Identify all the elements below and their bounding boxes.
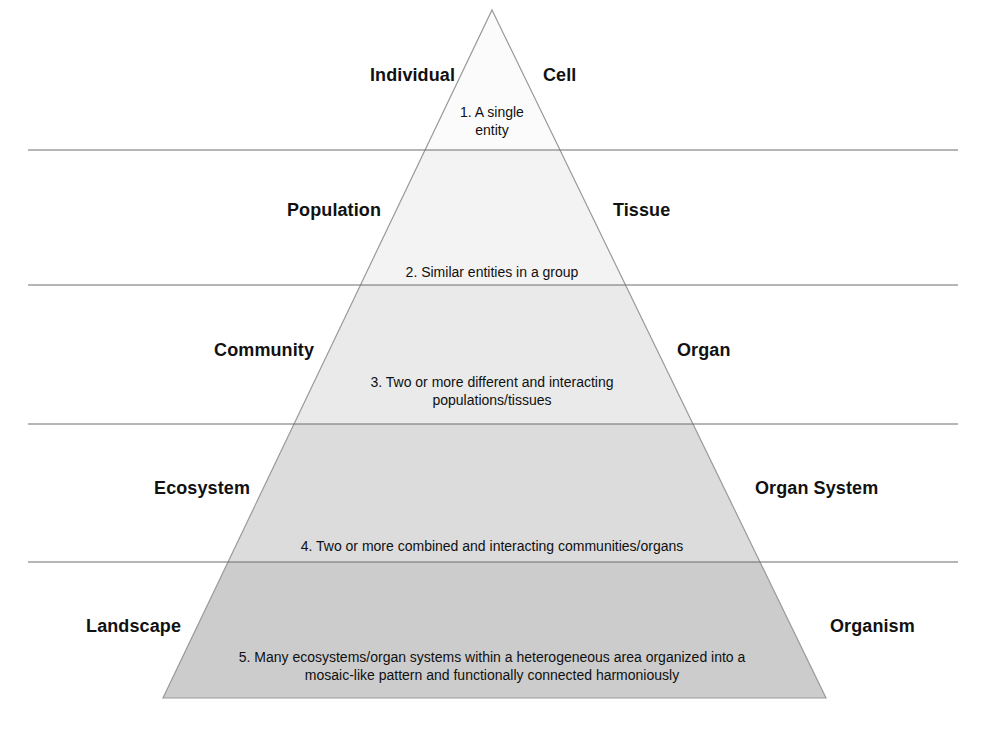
tier-description-5: 5. Many ecosystems/organ systems within … <box>142 649 842 684</box>
tier-label-left-community: Community <box>0 341 314 359</box>
tier-label-left-population: Population <box>0 201 381 219</box>
tier-description-2: 2. Similar entities in a group <box>282 264 702 282</box>
tier-label-left-ecosystem: Ecosystem <box>0 479 250 497</box>
tier-label-right-organ-system: Organ System <box>755 479 986 497</box>
pyramid-figure: Individual Cell 1. A single entity Popul… <box>0 0 986 733</box>
tier-description-4: 4. Two or more combined and interacting … <box>182 538 802 556</box>
tier-description-3: 3. Two or more different and interacting… <box>262 374 722 409</box>
tier-label-left-individual: Individual <box>0 66 455 84</box>
tier-label-right-organism: Organism <box>830 617 986 635</box>
tier-description-1: 1. A single entity <box>362 104 622 139</box>
tier-label-right-organ: Organ <box>677 341 986 359</box>
tier-label-right-tissue: Tissue <box>613 201 986 219</box>
tier-label-right-cell: Cell <box>543 66 986 84</box>
tier-label-left-landscape: Landscape <box>0 617 181 635</box>
